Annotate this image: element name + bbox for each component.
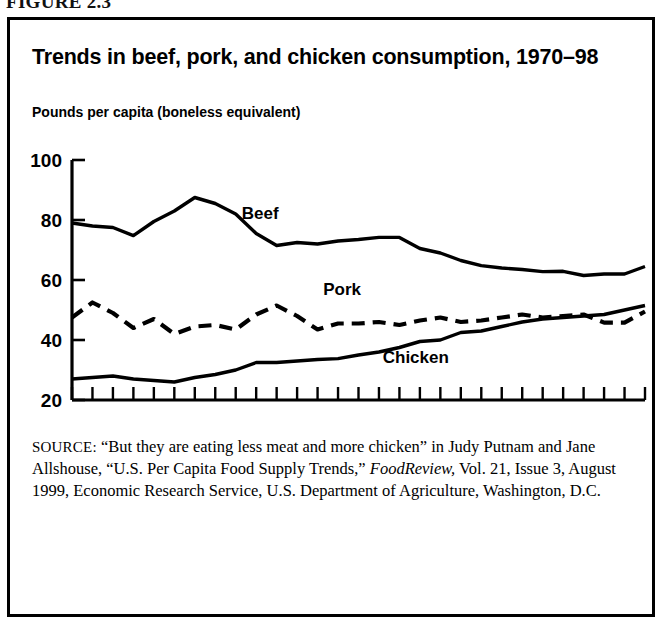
source-line-4: Service, U.S. Department of Agriculture,… [209,481,601,500]
source-publication-title: FoodReview, [370,459,455,478]
source-note: SOURCE: “But they are eating less meat a… [32,436,632,502]
x-axis-ticks [72,387,645,400]
y-tick-label: 80 [41,210,62,231]
y-tick-label: 100 [30,150,62,171]
y-axis-unit-label: Pounds per capita (boneless equivalent) [32,104,300,120]
series-label-beef: Beef [242,204,279,223]
figure-number-label: FIGURE 2.3 [6,0,111,13]
series-line-beef [72,198,645,276]
figure-box: Trends in beef, pork, and chicken consum… [7,17,655,617]
line-chart-plot: 20406080100 19707580859095 BeefPorkChick… [10,120,652,410]
y-axis-ticks [72,160,85,400]
source-line-1: “But they are eating less meat and more … [97,437,480,456]
y-tick-label: 40 [41,330,62,351]
source-label: SOURCE: [32,439,97,455]
y-tick-label: 60 [41,270,62,291]
series-label-chicken: Chicken [383,348,449,367]
y-axis-tick-labels: 20406080100 [30,150,62,410]
series-label-pork: Pork [323,280,361,299]
series-line-chicken [72,306,645,383]
chart-title: Trends in beef, pork, and chicken consum… [32,45,598,70]
y-tick-label: 20 [41,390,62,410]
